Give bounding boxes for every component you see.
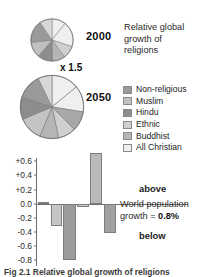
legend-label: Ethnic <box>136 120 160 129</box>
y-tick-label: +0.4 <box>15 170 32 180</box>
bar-muslim <box>51 204 62 227</box>
pie-multiplier-label: x 1.5 <box>60 62 82 73</box>
figure-title-line-2: growth of <box>124 34 206 46</box>
y-tick-label: -0.2 <box>18 213 32 223</box>
legend-swatch-icon <box>123 121 132 129</box>
figure-title-line-1: Relative global <box>124 22 206 34</box>
legend-label: Hindu <box>136 108 158 117</box>
legend-item-muslim: Muslim <box>123 96 207 108</box>
legend-item-all-christian: All Christian <box>123 142 207 154</box>
y-tick-label: +0.6 <box>15 156 32 166</box>
legend-swatch-icon <box>123 132 132 140</box>
plot-area <box>36 158 114 266</box>
world-population-line-1: World population <box>120 199 207 211</box>
y-tick-mark <box>34 260 37 261</box>
legend-item-non-religious: Non-religious <box>123 84 207 96</box>
bar-hindu <box>63 204 76 260</box>
pie-chart-2000 <box>30 18 74 66</box>
pie-2050-svg <box>19 74 85 140</box>
annotation-world-population-growth: World population growth = 0.8% <box>120 199 207 222</box>
y-tick-label: -0.6 <box>18 241 32 251</box>
figure-caption: Fig 2.1 Relative global growth of religi… <box>4 268 207 277</box>
bar-buddhist <box>90 153 102 204</box>
y-tick-mark <box>34 189 37 190</box>
legend-swatch-icon <box>123 97 132 105</box>
legend-item-ethnic: Ethnic <box>123 119 207 131</box>
figure-relative-global-growth-of-religions: 2000 x 1.5 2050 Relative global growth o… <box>0 0 207 277</box>
legend-swatch-icon <box>123 109 132 117</box>
y-tick-mark <box>34 246 37 247</box>
pie-2050-year-label: 2050 <box>86 91 111 103</box>
world-population-line-2: growth = 0.8% <box>120 211 207 223</box>
y-tick-mark <box>34 161 37 162</box>
y-tick-mark <box>34 217 37 218</box>
y-tick-mark <box>34 175 37 176</box>
y-tick-mark <box>34 232 37 233</box>
pie-2000-svg <box>30 18 74 62</box>
bar-ethnic <box>77 204 89 208</box>
y-tick-label: -0.8 <box>18 255 32 265</box>
y-tick-label: +0.2 <box>15 185 32 195</box>
legend-swatch-icon <box>123 144 132 152</box>
annotation-above: above <box>139 183 166 194</box>
legend-label: Buddhist <box>136 132 169 141</box>
legend-label: Non-religious <box>136 85 187 94</box>
pie-chart-2050 <box>19 74 85 144</box>
legend-swatch-icon <box>123 86 132 94</box>
bar-non-religious <box>38 202 49 204</box>
legend-label: All Christian <box>136 143 182 152</box>
pie-2000-year-label: 2000 <box>86 30 111 42</box>
y-tick-label: 0.0 <box>20 199 32 209</box>
legend-label: Muslim <box>136 97 163 106</box>
annotation-below: below <box>139 230 166 241</box>
world-population-value: 0.8% <box>158 211 179 221</box>
world-population-prefix: growth = <box>120 211 158 221</box>
y-axis-labels: +0.6 +0.4 +0.2 0.0 -0.2 -0.4 -0.6 -0.8 <box>2 158 32 266</box>
legend-item-buddhist: Buddhist <box>123 130 207 142</box>
legend-item-hindu: Hindu <box>123 107 207 119</box>
figure-title-line-3: religions <box>124 45 206 57</box>
legend: Non-religious Muslim Hindu Ethnic Buddhi… <box>123 84 207 154</box>
bar-all-christian <box>104 204 116 234</box>
y-tick-label: -0.4 <box>18 227 32 237</box>
figure-title: Relative global growth of religions <box>124 22 206 57</box>
